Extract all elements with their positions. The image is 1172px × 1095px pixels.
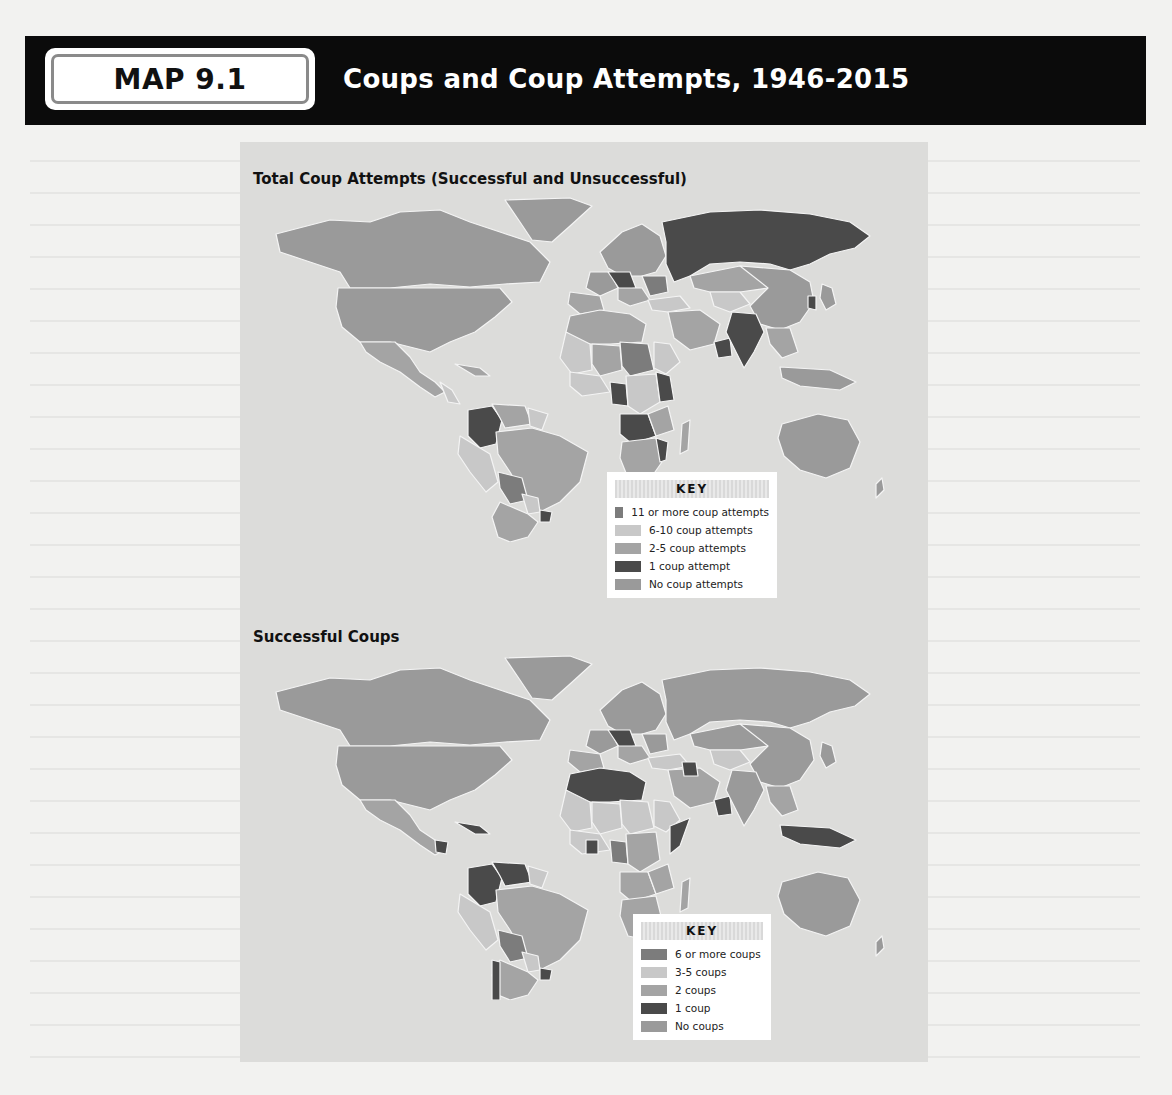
world-map-successful-coups [270,650,890,1000]
legend-item: 1 coup [641,999,763,1017]
legend-item: No coup attempts [615,575,769,593]
legend-item: 11 or more coup attempts [615,503,769,521]
legend-swatch-icon [615,561,641,572]
world-map-total-attempts [270,192,890,542]
map-panel: Total Coup Attempts (Successful and Unsu… [240,142,928,1062]
legend-swatch-icon [641,1003,667,1014]
legend-swatch-icon [641,967,667,978]
legend-swatch-icon [641,1021,667,1032]
legend-swatch-icon [641,949,667,960]
map-2-title: Successful Coups [253,628,400,646]
legend-item: 6 or more coups [641,945,763,963]
legend-title: KEY [615,480,769,498]
legend-item: No coups [641,1017,763,1035]
map-1-title: Total Coup Attempts (Successful and Unsu… [253,170,687,188]
legend-swatch-icon [615,543,641,554]
legend-item: 2 coups [641,981,763,999]
map-1-legend: KEY 11 or more coup attempts 6-10 coup a… [607,472,777,598]
legend-item: 1 coup attempt [615,557,769,575]
legend-swatch-icon [615,579,641,590]
legend-item: 2-5 coup attempts [615,539,769,557]
legend-swatch-icon [641,985,667,996]
legend-swatch-icon [615,525,641,536]
map-number-badge: MAP 9.1 [45,48,315,110]
map-2-legend: KEY 6 or more coups 3-5 coups 2 coups 1 … [633,914,771,1040]
legend-title: KEY [641,922,763,940]
map-number: MAP 9.1 [114,63,247,96]
legend-item: 3-5 coups [641,963,763,981]
legend-item: 6-10 coup attempts [615,521,769,539]
legend-swatch-icon [615,507,623,518]
map-title: Coups and Coup Attempts, 1946-2015 [343,64,909,94]
map-header-bar: MAP 9.1 Coups and Coup Attempts, 1946-20… [25,36,1146,125]
